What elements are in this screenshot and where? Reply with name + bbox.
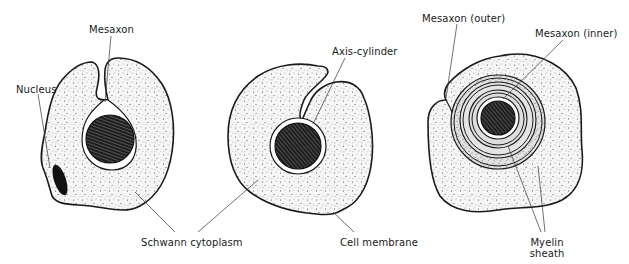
label-cell-membrane: Cell membrane: [340, 237, 418, 248]
label-myelin-line2: sheath: [527, 248, 567, 259]
leader-cell-membrane: [333, 212, 354, 232]
axon-1: [86, 115, 134, 163]
label-mesaxon: Mesaxon: [89, 24, 134, 35]
schwann-cell-myelination-diagram: Mesaxon Nucleus Axis-cylinder Schwann cy…: [0, 0, 629, 264]
leader-schwann-cytoplasm-right: [198, 180, 258, 232]
panel-late: [428, 24, 582, 232]
label-nucleus: Nucleus: [16, 84, 57, 95]
label-mesaxon-outer: Mesaxon (outer): [422, 13, 505, 24]
diagram-canvas: [0, 0, 629, 264]
label-myelin-line1: Myelin: [527, 237, 567, 248]
leader-schwann-cytoplasm-left: [135, 192, 175, 232]
panel-middle: [228, 58, 373, 215]
label-myelin-sheath: Myelin sheath: [527, 237, 567, 259]
panel-early: [38, 36, 174, 210]
axon-2: [275, 123, 321, 169]
axon-3: [481, 101, 515, 135]
label-mesaxon-inner: Mesaxon (inner): [535, 28, 617, 39]
label-schwann-cytoplasm: Schwann cytoplasm: [141, 237, 243, 248]
label-axis-cylinder: Axis-cylinder: [332, 46, 398, 57]
